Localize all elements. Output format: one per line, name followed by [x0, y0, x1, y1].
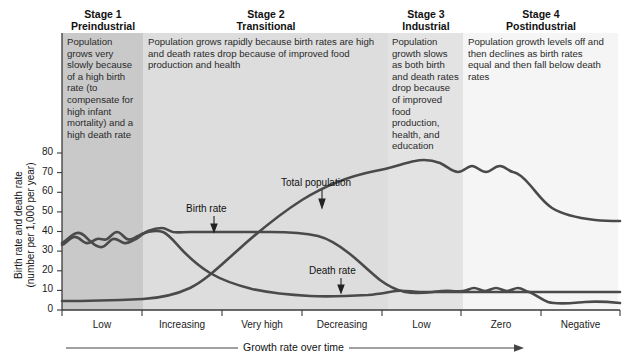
stage-number: Stage 2 — [143, 9, 389, 21]
x-tick-decreasing: Decreasing — [302, 319, 382, 330]
x-axis-ticks — [62, 310, 620, 316]
x-tick-low-1: Low — [62, 319, 142, 330]
stage-description-2: Population grows rapidly because birth r… — [148, 36, 376, 71]
stage-number: Stage 4 — [463, 9, 619, 21]
stage-description-1: Population grows very slowly because of … — [67, 36, 139, 140]
x-tick-low-2: Low — [382, 319, 461, 330]
curve-label-total-population: Total population — [281, 177, 351, 188]
demographic-transition-figure: Stage 1 Preindustrial Stage 2 Transition… — [0, 0, 631, 360]
stage-name: Industrial — [388, 21, 464, 33]
stage-number: Stage 1 — [62, 9, 144, 21]
y-axis-title-line1: Birth rate and death rate — [13, 171, 24, 279]
y-tick-70: 70 — [31, 166, 53, 177]
stage-number: Stage 3 — [388, 9, 464, 21]
curve-label-birth-rate: Birth rate — [186, 203, 227, 214]
curve-label-death-rate: Death rate — [309, 265, 356, 276]
x-tick-zero: Zero — [461, 319, 541, 330]
y-tick-80: 80 — [31, 146, 53, 157]
y-axis-ticks — [57, 153, 62, 310]
stage-header-1: Stage 1 Preindustrial — [62, 9, 144, 32]
stage-name: Preindustrial — [62, 21, 144, 33]
x-tick-increasing: Increasing — [142, 319, 222, 330]
stage-header-2: Stage 2 Transitional — [143, 9, 389, 32]
stage-header-3: Stage 3 Industrial — [388, 9, 464, 32]
y-tick-20: 20 — [31, 264, 53, 275]
stage-description-3: Population growth slows as both birth an… — [392, 36, 460, 152]
x-axis-title: Growth rate over time — [238, 341, 349, 353]
y-tick-30: 30 — [31, 244, 53, 255]
y-tick-40: 40 — [31, 225, 53, 236]
stage-description-4: Population growth levels off and then de… — [468, 36, 604, 82]
stage-name: Transitional — [143, 21, 389, 33]
x-tick-very-high: Very high — [222, 319, 302, 330]
stage-name: Postindustrial — [463, 21, 619, 33]
y-tick-60: 60 — [31, 185, 53, 196]
y-tick-0: 0 — [31, 303, 53, 314]
x-tick-negative: Negative — [541, 319, 620, 330]
y-tick-50: 50 — [31, 205, 53, 216]
y-tick-10: 10 — [31, 283, 53, 294]
stage-header-4: Stage 4 Postindustrial — [463, 9, 619, 32]
